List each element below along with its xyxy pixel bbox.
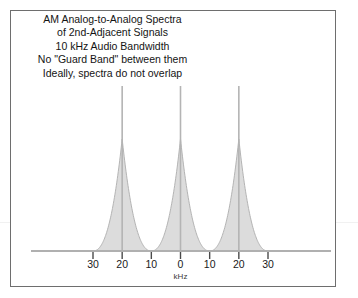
axis-unit-label: kHz (161, 272, 201, 281)
axis-tick-label: 10 (197, 258, 223, 270)
axis-tick-label: 10 (138, 258, 164, 270)
axis-tick-label: 0 (168, 258, 194, 270)
axis-tick-label: 30 (255, 258, 281, 270)
axis-tick-labels: 3020100102030kHz (0, 0, 358, 298)
axis-tick-label: 20 (226, 258, 252, 270)
am-spectra-figure: AM Analog-to-Analog Spectra of 2nd-Adjac… (0, 0, 358, 298)
axis-tick-label: 30 (80, 258, 106, 270)
axis-tick-label: 20 (109, 258, 135, 270)
